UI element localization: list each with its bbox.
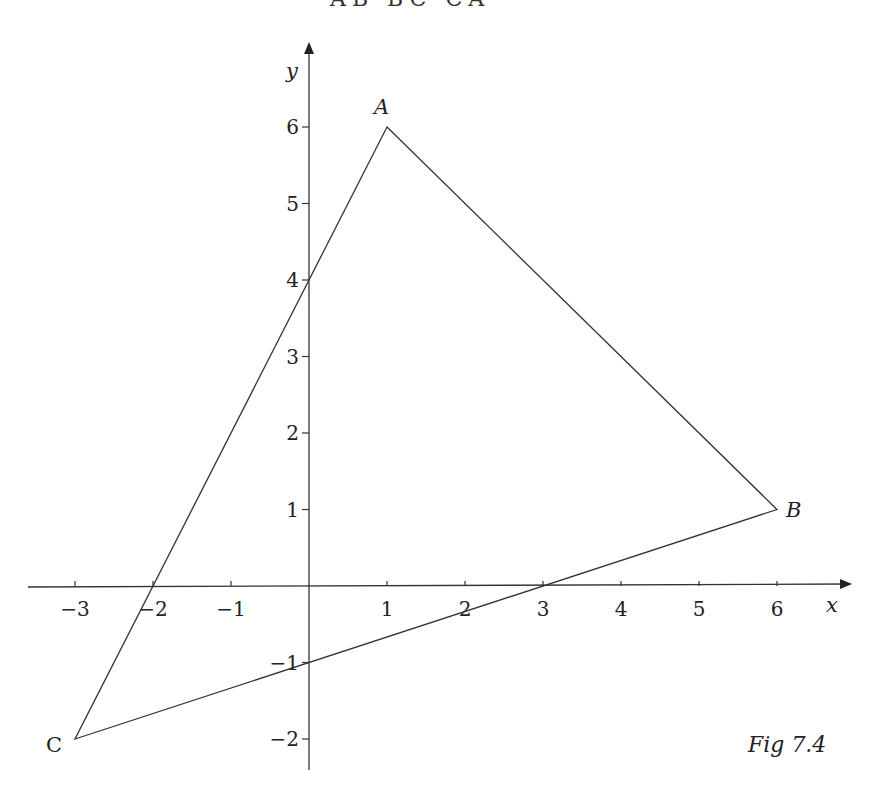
y-tick-label: 4	[286, 268, 299, 292]
x-tick-label: 5	[693, 597, 706, 621]
y-tick-label: 6	[286, 115, 299, 139]
vertex-label-c: C	[46, 733, 62, 757]
vertex-label-b: B	[785, 498, 801, 522]
x-tick-label: 1	[381, 597, 394, 621]
y-tick-label: 2	[286, 421, 299, 445]
x-tick-label: 3	[537, 597, 550, 621]
triangle-abc	[75, 127, 777, 739]
y-tick-label: 1	[286, 498, 299, 522]
figure-caption: Fig 7.4	[747, 732, 826, 757]
x-axis-label: x	[826, 593, 838, 617]
y-tick-label: 5	[286, 192, 299, 216]
x-axis	[28, 584, 850, 587]
x-tick-label: −1	[216, 597, 245, 621]
triangle-diagram: −3−2−1123456 654321−1−2 x y A B C Fig 7.…	[0, 0, 881, 802]
x-tick-label: −3	[60, 597, 89, 621]
x-tick-label: 2	[459, 597, 472, 621]
x-tick-label: 6	[771, 597, 784, 621]
x-tick-label: −2	[138, 597, 167, 621]
y-axis-label: y	[285, 59, 299, 83]
vertex-label-a: A	[372, 95, 389, 119]
y-tick-label: 3	[286, 345, 299, 369]
y-ticks: 654321−1−2	[270, 115, 309, 751]
y-tick-label: −2	[270, 727, 299, 751]
x-tick-label: 4	[615, 597, 628, 621]
